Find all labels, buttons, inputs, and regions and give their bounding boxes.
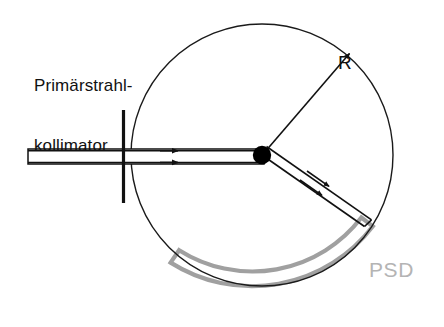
radius-label: R [338, 52, 352, 74]
primary-beam-collimator-label: Primärstrahl- kollimator [34, 36, 133, 196]
collimator-label-line-2: kollimator [34, 136, 133, 156]
psd-detector-arc [171, 218, 373, 287]
psd-label: PSD [369, 258, 414, 283]
collimator-label-line-1: Primärstrahl- [34, 76, 133, 96]
sample-position-dot [253, 146, 271, 164]
diffracted-beam [262, 147, 372, 227]
diffractometer-diagram: Primärstrahl- kollimator R PSD [0, 0, 444, 327]
radius-arrow [264, 54, 350, 154]
